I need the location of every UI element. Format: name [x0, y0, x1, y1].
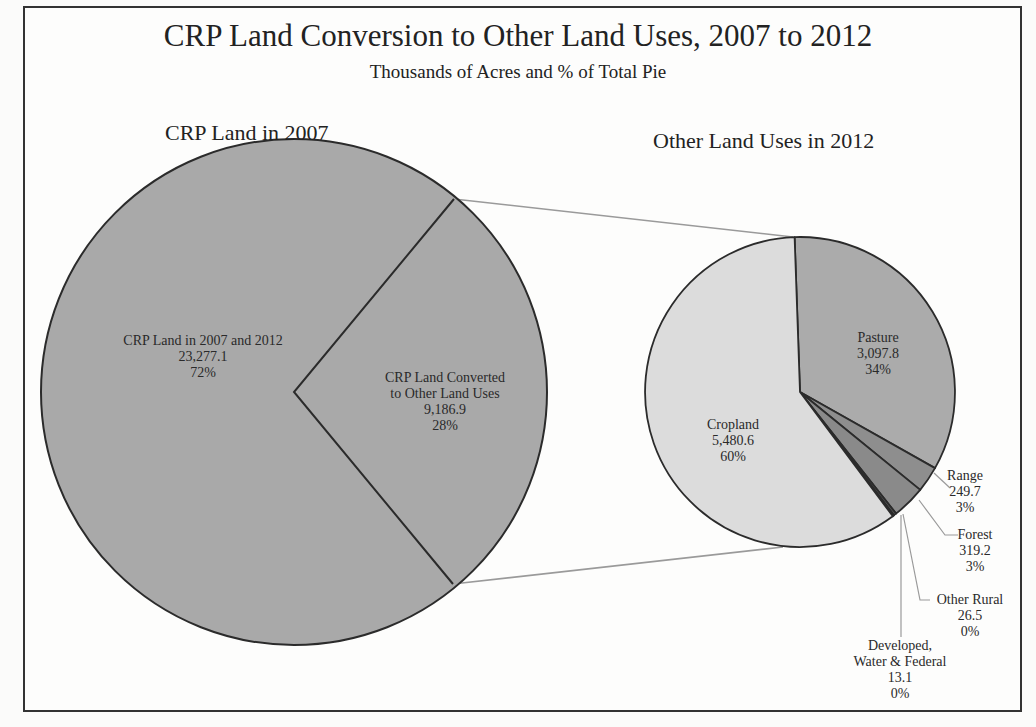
- label-cropland: Cropland 5,480.6 60%: [688, 417, 778, 465]
- label-value: 5,480.6: [688, 433, 778, 449]
- label-text: Cropland: [688, 417, 778, 433]
- label-crp-converted: CRP Land Converted to Other Land Uses 9,…: [360, 370, 530, 434]
- label-value: 23,277.1: [88, 349, 318, 365]
- label-value: 26.5: [925, 608, 1015, 624]
- label-value: 319.2: [950, 543, 1000, 559]
- label-text: CRP Land Converted: [360, 370, 530, 386]
- label-range: Range 249.7 3%: [935, 468, 995, 516]
- label-other-rural: Other Rural 26.5 0%: [925, 592, 1015, 640]
- label-value: 249.7: [935, 484, 995, 500]
- label-forest: Forest 319.2 3%: [950, 527, 1000, 575]
- label-text: Water & Federal: [835, 654, 965, 670]
- right-pie-title: Other Land Uses in 2012: [653, 128, 874, 154]
- label-text: Other Rural: [925, 592, 1015, 608]
- connector-line-top: [454, 199, 793, 237]
- label-text: Pasture: [838, 330, 918, 346]
- label-text: Forest: [950, 527, 1000, 543]
- label-pct: 3%: [935, 500, 995, 516]
- label-text: to Other Land Uses: [360, 386, 530, 402]
- label-value: 13.1: [835, 670, 965, 686]
- left-pie-title: CRP Land in 2007: [165, 120, 329, 146]
- label-pct: 3%: [950, 559, 1000, 575]
- right-pie: [645, 237, 955, 547]
- chart-title: CRP Land Conversion to Other Land Uses, …: [0, 18, 1036, 54]
- connector-line-bottom: [453, 547, 783, 584]
- label-pct: 28%: [360, 418, 530, 434]
- label-text: Developed,: [835, 638, 965, 654]
- chart-subtitle: Thousands of Acres and % of Total Pie: [0, 61, 1036, 83]
- label-pct: 60%: [688, 449, 778, 465]
- label-pct: 34%: [838, 362, 918, 378]
- label-pasture: Pasture 3,097.8 34%: [838, 330, 918, 378]
- label-developed: Developed, Water & Federal 13.1 0%: [835, 638, 965, 702]
- label-pct: 72%: [88, 365, 318, 381]
- label-text: Range: [935, 468, 995, 484]
- label-value: 3,097.8: [838, 346, 918, 362]
- label-crp-retained: CRP Land in 2007 and 2012 23,277.1 72%: [88, 333, 318, 381]
- label-text: CRP Land in 2007 and 2012: [88, 333, 318, 349]
- label-value: 9,186.9: [360, 402, 530, 418]
- leader-other-rural: [903, 514, 930, 600]
- label-pct: 0%: [835, 686, 965, 702]
